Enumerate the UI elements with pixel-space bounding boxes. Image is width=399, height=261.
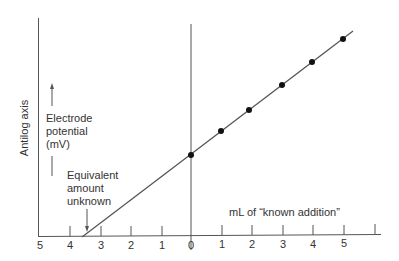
x-ticks: [70, 224, 375, 236]
svg-text:4: 4: [67, 239, 73, 251]
equivalent-annotation: Equivalent amount unknown: [67, 169, 118, 232]
electrode-annotation: Electrode potential (mV): [46, 83, 92, 176]
svg-text:unknown: unknown: [67, 195, 111, 207]
svg-text:Equivalent: Equivalent: [67, 169, 118, 181]
svg-text:2: 2: [249, 238, 255, 250]
y-axis-label: Antilog axis: [18, 99, 30, 156]
x-axis-title: mL of “known addition”: [229, 206, 340, 218]
svg-text:5: 5: [341, 237, 347, 249]
svg-text:(mV): (mV): [46, 138, 70, 150]
svg-text:2: 2: [128, 239, 134, 251]
svg-text:1: 1: [159, 239, 165, 251]
svg-text:0: 0: [188, 239, 194, 251]
svg-text:4: 4: [310, 238, 316, 250]
svg-text:3: 3: [98, 239, 104, 251]
x-axis: [38, 235, 381, 237]
svg-text:5: 5: [37, 239, 43, 251]
svg-text:Electrode: Electrode: [46, 112, 92, 124]
svg-text:3: 3: [280, 238, 286, 250]
svg-text:amount: amount: [67, 182, 104, 194]
svg-text:potential: potential: [46, 125, 88, 137]
svg-text:1: 1: [219, 238, 225, 250]
x-tick-labels: 5 4 3 2 1 0 1 2 3 4 5: [37, 237, 347, 251]
chart-canvas: 5 4 3 2 1 0 1 2 3 4 5 Antilog axis Elect…: [0, 0, 399, 261]
